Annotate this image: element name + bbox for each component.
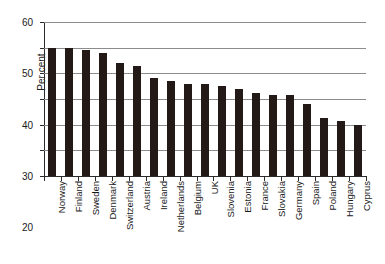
bar [303, 104, 311, 176]
bar [235, 89, 243, 176]
bar [337, 121, 345, 176]
x-axis-label: UK [209, 181, 220, 194]
bar [150, 78, 158, 176]
y-tick-label: 60 [22, 17, 33, 28]
x-axis-line [44, 176, 366, 177]
x-axis-label: Ireland [158, 181, 169, 210]
x-axis-label: Switzerland [124, 181, 135, 230]
y-tick-label: 50 [22, 68, 33, 79]
x-axis-label: Cyprus [361, 181, 372, 211]
bar [82, 50, 90, 176]
x-axis-label: France [259, 181, 270, 211]
y-tick-label: 30 [22, 171, 33, 182]
x-axis-label: Netherlands [175, 181, 186, 232]
bar [252, 93, 260, 176]
bar [184, 84, 192, 176]
bars-layer [44, 22, 366, 176]
x-axis-label: Austria [141, 181, 152, 211]
bar [218, 86, 226, 176]
x-axis-label: Estonia [242, 181, 253, 213]
bar [320, 118, 328, 176]
x-axis-label: Norway [56, 181, 67, 213]
bar [99, 53, 107, 176]
x-axis-label: Spain [310, 181, 321, 205]
y-tick-label: 20 [22, 222, 33, 233]
x-axis-label: Poland [327, 181, 338, 211]
bar [201, 84, 209, 176]
plot-area: 0102030405060 [44, 22, 366, 176]
bar [354, 125, 362, 176]
bar [116, 63, 124, 176]
x-axis-label: Slovakia [276, 181, 287, 217]
x-axis-label: Germany [293, 181, 304, 220]
x-axis-label: Hungary [344, 181, 355, 217]
x-axis-label: Sweden [90, 181, 101, 215]
x-axis-label: Slovenia [225, 181, 236, 217]
bar [269, 95, 277, 176]
bar [48, 48, 56, 176]
bar-chart-figure: Per cent 0102030405060 NorwayFinlandSwed… [0, 0, 385, 264]
bar [65, 48, 73, 176]
y-tick-label: 40 [22, 119, 33, 130]
x-axis-label: Denmark [107, 181, 118, 220]
bar [286, 95, 294, 176]
x-axis-category-labels: NorwayFinlandSwedenDenmarkSwitzerlandAus… [44, 181, 366, 263]
bar [167, 81, 175, 176]
bar [133, 66, 141, 176]
x-axis-label: Finland [73, 181, 84, 212]
x-axis-label: Belgium [192, 181, 203, 215]
